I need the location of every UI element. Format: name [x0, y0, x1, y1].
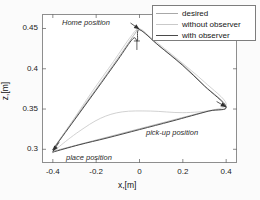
- legend-label-desired: desired: [182, 8, 208, 19]
- apex-secondary-marker: [134, 41, 140, 50]
- x-tick-label-3: 0.2: [168, 167, 198, 176]
- y-axis-title: z,[m]: [0, 82, 10, 100]
- y-tick-label-2: 0.4: [2, 64, 38, 73]
- series-line-desired: [53, 28, 226, 151]
- series-line-with-observer: [53, 30, 226, 152]
- y-tick-label-0: 0.3: [2, 144, 38, 153]
- annotation-home-position: Home position: [62, 18, 110, 27]
- x-axis-title: x,[m]: [118, 180, 136, 190]
- legend-label-with-observer: with observer: [182, 30, 230, 41]
- legend-item-with-observer: with observer: [156, 30, 252, 41]
- legend-swatch-without-observer: [156, 24, 178, 25]
- x-tick-label-4: 0.4: [211, 167, 241, 176]
- chart-figure: 0.30.350.40.45 -0.4-0.200.20.4 x,[m] z,[…: [0, 0, 260, 200]
- x-tick-label-0: -0.4: [38, 167, 68, 176]
- annotation-place-position: place position: [66, 153, 112, 162]
- apex-arrow-stem: [130, 23, 139, 29]
- series-line-without-observer: [53, 29, 226, 153]
- legend-label-without-observer: without observer: [182, 19, 241, 30]
- x-tick-label-1: -0.2: [81, 167, 111, 176]
- y-tick-label-1: 0.35: [2, 104, 38, 113]
- y-tick-label-3: 0.45: [2, 23, 38, 32]
- arrow-markers-layer: [51, 23, 227, 153]
- series-layer: [53, 28, 226, 152]
- x-tick-label-2: 0: [125, 167, 155, 176]
- legend-item-without-observer: without observer: [156, 19, 252, 30]
- legend-item-desired: desired: [156, 8, 252, 19]
- legend: desired without observer with observer: [152, 5, 256, 41]
- legend-swatch-desired: [156, 13, 178, 14]
- annotation-pickup-position: pick-up position: [146, 128, 198, 137]
- legend-swatch-with-observer: [156, 35, 178, 36]
